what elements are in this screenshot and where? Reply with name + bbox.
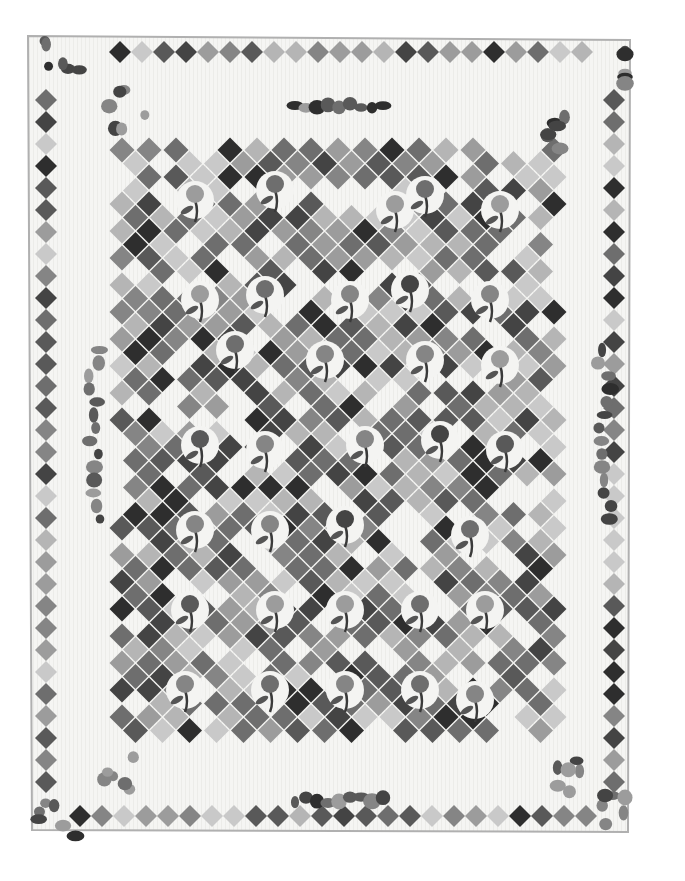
quilt-photo: Grayscale photograph of an appliqué and … [0, 0, 685, 881]
quilt-canvas [0, 0, 685, 881]
